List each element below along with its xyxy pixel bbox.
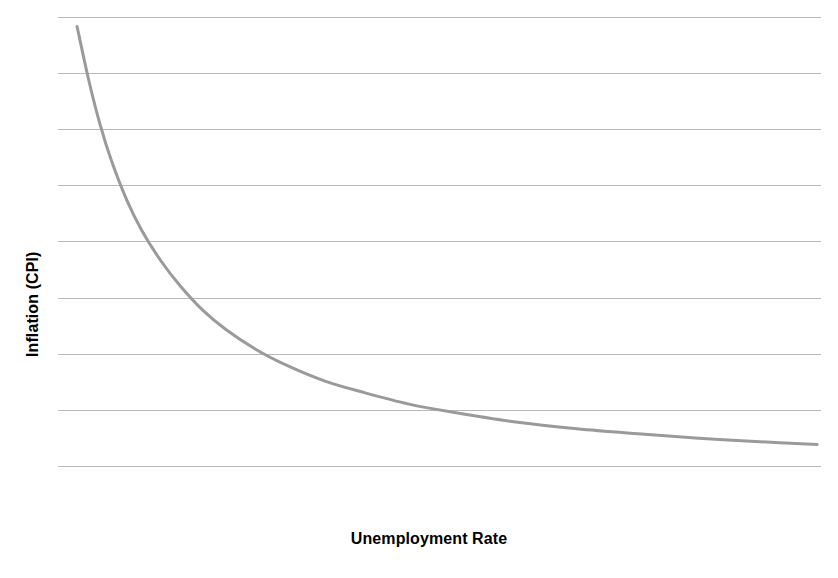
data-series-group (77, 26, 817, 444)
chart-plot-area (0, 0, 838, 578)
curve-line (77, 26, 817, 444)
gridlines (58, 18, 821, 467)
phillips-curve-chart: Inflation (CPI) Unemployment Rate (0, 0, 838, 578)
y-axis-label: Inflation (CPI) (22, 187, 44, 357)
x-axis-label: Unemployment Rate (229, 530, 629, 548)
